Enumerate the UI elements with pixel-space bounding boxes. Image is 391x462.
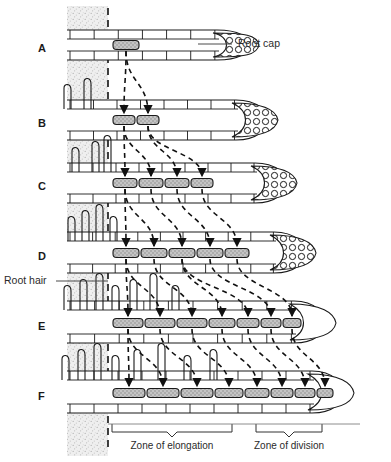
row-letter-a: A bbox=[38, 42, 46, 54]
marked-cell bbox=[237, 319, 259, 328]
marked-cell bbox=[165, 179, 189, 188]
marked-cell bbox=[141, 249, 167, 258]
marked-cell bbox=[209, 319, 235, 328]
marked-cell bbox=[113, 319, 143, 328]
marked-cell bbox=[317, 389, 333, 398]
row-letter-e: E bbox=[38, 320, 46, 332]
marked-cell bbox=[191, 179, 213, 188]
zone-brackets bbox=[108, 424, 360, 437]
marked-cell bbox=[113, 249, 139, 258]
marked-cell bbox=[113, 179, 137, 188]
zone-bracket-elongation bbox=[112, 424, 232, 437]
marked-cell bbox=[245, 389, 269, 398]
marked-cell bbox=[139, 179, 163, 188]
marked-cell bbox=[197, 249, 223, 258]
marked-cell bbox=[261, 319, 281, 328]
marked-cell bbox=[283, 319, 301, 328]
row-letter-f: F bbox=[38, 390, 45, 402]
marked-cell bbox=[113, 389, 145, 398]
marked-cell bbox=[145, 319, 175, 328]
row-letter-b: B bbox=[38, 117, 46, 129]
row-letter-c: C bbox=[38, 180, 46, 192]
callout-label-root-cap: Root cap bbox=[238, 37, 280, 49]
marked-cell bbox=[113, 41, 139, 50]
zone-label-division: Zone of division bbox=[254, 440, 324, 451]
root-growth-diagram: Root capRoot hairABCDEFZone of elongatio… bbox=[0, 0, 391, 462]
diagram-canvas bbox=[0, 0, 391, 462]
zone-bracket-division bbox=[256, 424, 322, 437]
marked-cell bbox=[113, 116, 135, 125]
zone-label-elongation: Zone of elongation bbox=[131, 440, 214, 451]
marked-cell bbox=[271, 389, 293, 398]
callout-label-root-hair: Root hair bbox=[4, 274, 47, 286]
marked-cell bbox=[215, 389, 243, 398]
marked-cell bbox=[225, 249, 249, 258]
marked-cell bbox=[295, 389, 315, 398]
root-row-a bbox=[67, 30, 259, 60]
marked-cell bbox=[181, 389, 213, 398]
marked-cell bbox=[137, 116, 159, 125]
marked-cell bbox=[169, 249, 195, 258]
marked-cell bbox=[177, 319, 207, 328]
marked-cell bbox=[147, 389, 179, 398]
row-letter-d: D bbox=[38, 250, 46, 262]
